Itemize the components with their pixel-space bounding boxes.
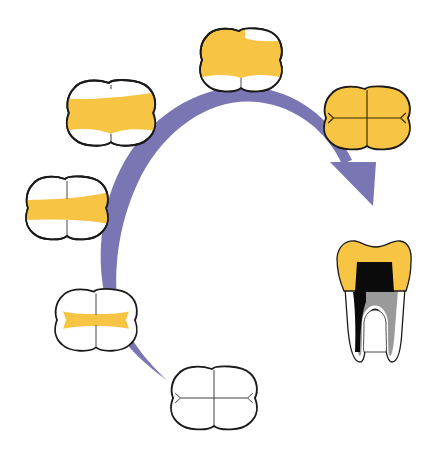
arrow-head <box>330 162 376 206</box>
stage-3-medium-restoration <box>25 176 109 239</box>
stage-2-small-restoration <box>55 289 137 351</box>
stage-7-crown-post-core-side-view <box>337 241 411 362</box>
stage-5-extensive-restoration <box>199 28 283 94</box>
tooth-progression-diagram <box>0 0 434 463</box>
stage-6-full-crown <box>324 86 410 149</box>
stage-4-large-restoration <box>66 80 157 146</box>
stage-1-intact-tooth <box>171 366 257 429</box>
